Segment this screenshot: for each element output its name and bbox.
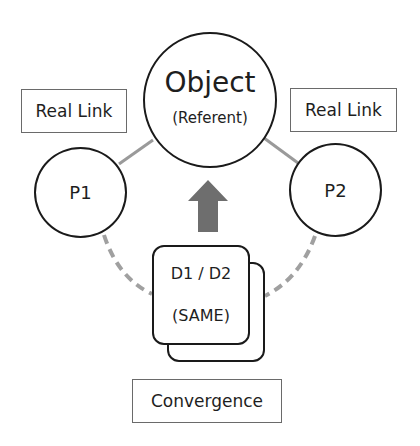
object-title: Object (164, 67, 255, 99)
participant-node-p1: P1 (34, 147, 127, 238)
real-link-label-right: Real Link (290, 88, 397, 132)
convergence-caption: Convergence (132, 379, 282, 423)
up-arrow-icon (188, 180, 228, 232)
shared-card-front: D1 / D2 (SAME) (152, 245, 250, 345)
object-node: Object (Referent) (143, 32, 277, 168)
shared-card-title: D1 / D2 (171, 264, 232, 284)
diagram-canvas: Real Link Real Link Object (Referent) P1… (0, 0, 420, 446)
real-link-line-left (119, 140, 153, 164)
real-link-line-right (264, 138, 298, 163)
real-link-right-text: Real Link (305, 100, 382, 120)
dashed-link-right (265, 236, 315, 296)
participant-node-p2: P2 (289, 143, 382, 237)
real-link-left-text: Real Link (36, 101, 113, 121)
shared-card-subtitle: (SAME) (172, 306, 230, 326)
real-link-label-left: Real Link (21, 89, 127, 133)
dashed-link-left (104, 235, 152, 294)
p1-label: P1 (69, 182, 91, 203)
convergence-text: Convergence (151, 391, 263, 411)
p2-label: P2 (324, 180, 346, 201)
object-subtitle: (Referent) (172, 109, 248, 127)
